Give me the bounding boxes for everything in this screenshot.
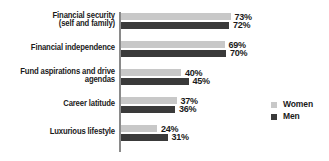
bar-row: 69%: [121, 41, 241, 48]
bar-group: Financial independence69%70%: [0, 41, 329, 57]
bar-value-label: 31%: [172, 132, 189, 142]
bar-women: [121, 69, 181, 76]
bar-row: 72%: [121, 22, 241, 29]
bar-row: 31%: [121, 134, 241, 141]
bar-women: [121, 97, 177, 104]
bar-men: [121, 106, 175, 113]
category-label: Financial independence: [10, 44, 115, 53]
bar-value-label: 72%: [233, 20, 250, 30]
bar-row: 40%: [121, 69, 241, 76]
bar-group: Fund aspirations and drive agendas40%45%: [0, 69, 329, 85]
category-label: Financial security (self and family): [10, 12, 115, 29]
plot-area: Financial security (self and family)73%7…: [0, 12, 329, 154]
grouped-bar-chart: Financial security (self and family)73%7…: [0, 0, 329, 161]
bar-value-label: 36%: [179, 104, 196, 114]
category-label: Career latitude: [10, 100, 115, 109]
bar-men: [121, 78, 189, 85]
bar-row: 70%: [121, 50, 241, 57]
bar-value-label: 45%: [193, 76, 210, 86]
bar-value-label: 70%: [230, 48, 247, 58]
legend-label-women: Women: [283, 99, 313, 109]
bar-row: 73%: [121, 13, 241, 20]
bar-group: Career latitude37%36%: [0, 97, 329, 113]
legend-swatch-women-icon: [271, 102, 277, 108]
bar-group: Luxurious lifestyle24%31%: [0, 125, 329, 141]
category-label: Luxurious lifestyle: [10, 128, 115, 137]
bar-men: [121, 134, 168, 141]
legend-label-men: Men: [283, 111, 300, 121]
bar-row: 45%: [121, 78, 241, 85]
bar-men: [121, 22, 229, 29]
bar-group: Financial security (self and family)73%7…: [0, 13, 329, 29]
bar-women: [121, 13, 231, 20]
bar-women: [121, 41, 225, 48]
bar-women: [121, 125, 157, 132]
bar-row: 37%: [121, 97, 241, 104]
bar-row: 24%: [121, 125, 241, 132]
legend-swatch-men-icon: [271, 114, 277, 120]
bar-men: [121, 50, 226, 57]
bar-row: 36%: [121, 106, 241, 113]
category-label: Fund aspirations and drive agendas: [10, 68, 115, 85]
